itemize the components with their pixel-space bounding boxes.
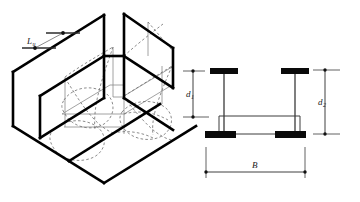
iso-buckling-dashed-curves	[50, 22, 172, 160]
top-right-flange	[281, 68, 309, 74]
label-lu-symbol: L	[26, 36, 32, 46]
iso-heavy-outline	[13, 14, 196, 183]
label-d2-subscript: 2	[323, 102, 326, 108]
cross-section-group	[183, 68, 340, 178]
label-lu-subscript: u	[32, 41, 35, 47]
label-B-symbol: B	[252, 160, 258, 170]
top-left-flange	[210, 68, 238, 74]
label-B: B	[252, 160, 258, 170]
bottom-right-flange	[275, 131, 306, 138]
label-d1-subscript: 1	[191, 94, 194, 100]
bottom-left-flange	[205, 131, 236, 138]
label-unbraced-length: Lu	[26, 36, 35, 47]
figure-canvas: Lu d1 d2 B	[0, 0, 360, 202]
d2-dot-bottom	[323, 132, 326, 135]
d1-dot-top	[191, 69, 194, 72]
lu-dot-upper	[61, 31, 65, 35]
d1-dot-bottom	[191, 115, 194, 118]
B-dot-right	[303, 170, 306, 173]
d2-dot-top	[323, 68, 326, 71]
B-dot-left	[204, 170, 207, 173]
isometric-channel-beam	[13, 14, 196, 183]
isometric-view-svg: Lu d1 d2 B	[0, 0, 360, 202]
